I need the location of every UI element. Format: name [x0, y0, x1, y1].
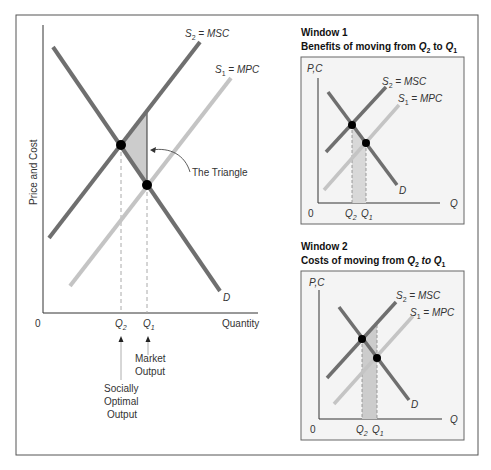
w1-social-optimum-point: [348, 121, 356, 129]
w1-demand-label: D: [399, 185, 406, 196]
w2-social-optimum-point: [358, 335, 366, 343]
window2-title: Window 2: [301, 241, 348, 252]
demand-label: D: [223, 292, 230, 303]
w2-x-axis-label: Q: [450, 414, 458, 425]
w2-origin-label: 0: [310, 424, 316, 435]
social-optimum-point: [116, 140, 126, 150]
w2-market-point: [373, 354, 381, 362]
window-1: Window 1 Benefits of moving from Q2 to Q…: [301, 27, 464, 224]
market-equilibrium-point: [142, 180, 152, 190]
x-axis-label: Quantity: [222, 318, 259, 329]
w2-y-axis-label: P,C: [309, 277, 325, 288]
w2-demand-label: D: [411, 399, 418, 410]
window-2: Window 2 Costs of moving from Q2 to Q1 P…: [301, 241, 464, 440]
w1-market-point: [362, 139, 370, 147]
triangle-annotation: The Triangle: [192, 167, 248, 178]
w1-origin-label: 0: [308, 208, 314, 219]
y-axis-label: Price and Cost: [28, 139, 39, 205]
origin-label: 0: [35, 318, 41, 329]
externality-diagram: S2 = MSC S1 = MPC D The Triangle Price a…: [0, 0, 491, 470]
w1-y-axis-label: P,C: [307, 63, 323, 74]
w1-x-axis-label: Q: [450, 198, 458, 209]
window1-title: Window 1: [301, 27, 348, 38]
socially-optimal-output-label: Socially Optimal Output: [104, 383, 141, 420]
